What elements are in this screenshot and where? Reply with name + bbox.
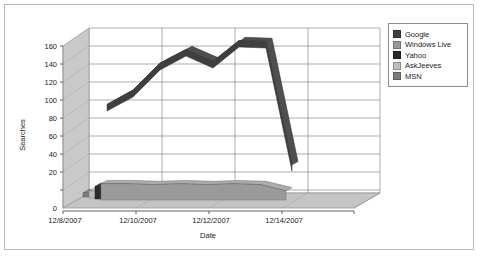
y-tick-label-140: 140: [44, 60, 57, 69]
legend-swatch-askjeeves: [393, 62, 401, 70]
series-windows-live-face: [101, 184, 286, 200]
chart-legend: Google Windows Live Yahoo AskJeeves MSN: [388, 23, 468, 87]
series-windows-live: [101, 180, 292, 200]
legend-swatch-google: [393, 30, 401, 38]
y-tick-label-80: 80: [49, 114, 57, 123]
legend-item-google[interactable]: Google: [393, 30, 463, 39]
legend-label-yahoo: Yahoo: [405, 51, 426, 60]
legend-swatch-windows-live: [393, 41, 401, 49]
legend-label-askjeeves: AskJeeves: [405, 61, 441, 70]
y-tick-label-40: 40: [49, 150, 57, 159]
y-tick-label-20: 20: [49, 168, 57, 177]
legend-swatch-msn: [393, 72, 401, 80]
x-tick-label-1: 12/8/2007: [48, 216, 81, 225]
y-tick-label-100: 100: [44, 96, 57, 105]
plot-back-wall: [89, 28, 380, 193]
x-axis-title: Date: [200, 231, 216, 240]
y-tick-label-160: 160: [44, 42, 57, 51]
y-axis-title: Searches: [18, 119, 27, 151]
legend-label-msn: MSN: [405, 72, 422, 81]
x-tick-label-4: 12/14/2007: [265, 216, 303, 225]
x-tick-label-2: 12/10/2007: [119, 216, 157, 225]
legend-label-windows-live: Windows Live: [405, 40, 451, 49]
y-tick-label-60: 60: [49, 132, 57, 141]
x-tick-label-3: 12/12/2007: [192, 216, 230, 225]
y-tick-label-0: 0: [53, 204, 57, 213]
y-axis-ticks: [60, 46, 63, 190]
legend-item-windows-live[interactable]: Windows Live: [393, 40, 463, 49]
legend-item-yahoo[interactable]: Yahoo: [393, 51, 463, 60]
legend-item-msn[interactable]: MSN: [393, 72, 463, 81]
legend-label-google: Google: [405, 30, 429, 39]
chart-canvas: 160 140 120 100 80 60 40 20 0 Searches 1…: [5, 5, 475, 251]
legend-swatch-yahoo: [393, 51, 401, 59]
chart-frame: 160 140 120 100 80 60 40 20 0 Searches 1…: [4, 4, 474, 250]
y-tick-label-120: 120: [44, 78, 57, 87]
legend-item-askjeeves[interactable]: AskJeeves: [393, 61, 463, 70]
x-axis-ticks: [63, 211, 354, 214]
